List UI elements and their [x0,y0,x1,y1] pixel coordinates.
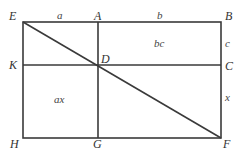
point-label-G: G [93,137,102,151]
point-label-K: K [8,58,18,72]
point-label-D: D [100,52,110,66]
point-label-E: E [8,9,17,23]
point-label-F: F [222,137,231,151]
geometry-diagram: E A B K D C H G F a b c x bc ax [0,0,242,156]
segment-label-BC: c [225,37,230,49]
region-label-bc: bc [154,37,165,49]
point-label-A: A [93,9,102,23]
diagonal-EF [23,22,221,138]
segment-label-AB: b [157,9,163,21]
point-label-C: C [225,59,234,73]
segment-label-EA: a [57,9,63,21]
segment-label-CF: x [224,91,230,103]
region-label-ax: ax [54,93,65,105]
point-label-B: B [225,9,233,23]
point-label-H: H [9,137,20,151]
